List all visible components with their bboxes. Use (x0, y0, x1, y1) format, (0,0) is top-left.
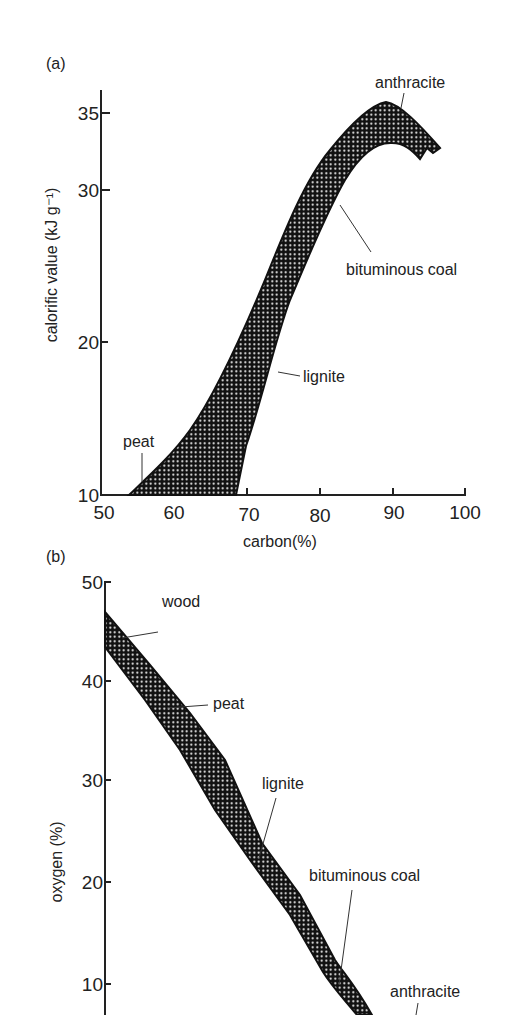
annot-b-anthracite: anthracite (390, 983, 460, 1000)
ytick-b-40: 40 (82, 671, 103, 692)
panel-a-label: (a) (46, 55, 66, 72)
ytick-20: 20 (78, 332, 99, 353)
annot-b-bituminous: bituminous coal (309, 867, 420, 884)
xtick-100: 100 (449, 502, 481, 523)
annot-a-anthracite: anthracite (375, 74, 445, 91)
ytick-b-50: 50 (82, 572, 103, 593)
annot-b-lignite: lignite (262, 775, 304, 792)
panel-b-label: (b) (46, 548, 66, 565)
panel-b-oxygen-band (105, 612, 372, 1015)
xtick-80: 80 (309, 505, 330, 526)
xtick-70: 70 (238, 504, 259, 525)
annot-a-bituminous: bituminous coal (346, 261, 457, 278)
xtick-60: 60 (163, 502, 184, 523)
ytick-b-20: 20 (82, 872, 103, 893)
leader-b-bituminous (339, 890, 352, 985)
annot-b-wood: wood (161, 593, 200, 610)
leader-a-bituminous (340, 205, 371, 252)
leader-b-wood (122, 632, 158, 638)
panel-a-coal-band (129, 102, 440, 495)
ytick-30: 30 (78, 180, 99, 201)
panel-a: (a) 35 30 20 10 50 60 70 80 90 100 (43, 55, 481, 550)
leader-a-anthracite (401, 93, 404, 108)
ytick-35: 35 (78, 103, 99, 124)
panel-b-y-title: oxygen (%) (48, 822, 65, 903)
panel-a-y-title: calorific value (kJ g⁻¹) (43, 188, 60, 343)
panel-a-y-ticks: 35 30 20 10 (78, 103, 110, 506)
leader-a-lignite (278, 372, 300, 376)
ytick-b-10: 10 (82, 974, 103, 995)
xtick-90: 90 (383, 502, 404, 523)
xtick-50: 50 (93, 502, 114, 523)
leader-b-anthracite (416, 1003, 418, 1015)
annot-a-lignite: lignite (303, 368, 345, 385)
panel-a-x-title: carbon(%) (243, 533, 317, 550)
figure-canvas: (a) 35 30 20 10 50 60 70 80 90 100 (0, 0, 511, 1015)
ytick-b-30: 30 (82, 770, 103, 791)
panel-b: (b) 50 40 30 20 10 oxygen (%) wood peat … (46, 548, 460, 1015)
annot-a-peat: peat (123, 433, 155, 450)
annot-b-peat: peat (213, 695, 245, 712)
